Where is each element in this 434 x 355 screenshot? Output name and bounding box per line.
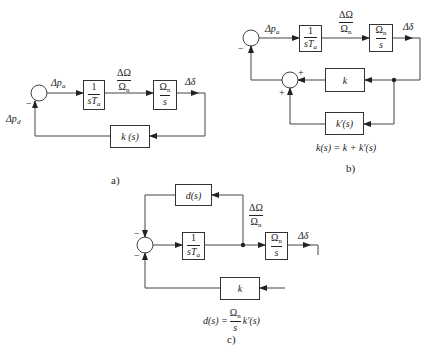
equation-b: k(s) = k + k′(s) [316,143,376,153]
angle-block-b: Ωn s [369,24,393,52]
feedback-block-kprime-b: k′(s) [325,112,364,135]
block-diagram-wires [0,0,434,355]
equation-c: d(s) = Ωn s k′(s) [203,308,260,334]
feedforward-block-ds-c: d(s) [175,184,212,206]
sum-junction-a [31,85,47,101]
sum-junction-b-inner [282,72,298,88]
caption-b: b) [346,162,355,174]
sum-sign-minus-b: − [238,44,244,54]
angle-block-a: Ωn s [153,80,177,110]
feedback-block-k-c: k [220,277,260,300]
inner-sum-sign-plus-bottom: + [279,88,285,98]
output-label-a: Δδ [185,77,196,87]
branch-point-b [392,78,396,82]
feedback-signal-label-a: Δpd [6,114,20,126]
sum-sign-minus-c-bottom: − [134,251,140,261]
speed-deviation-label-c: ΔΩ Ωn [249,203,263,229]
output-label-c: Δδ [298,231,309,241]
feedback-block-k-b: k [325,68,365,92]
block-denominator: sTa [88,96,101,108]
block-numerator: 1 [91,82,96,93]
input-signal-label-b: Δpa [265,24,279,36]
integrator-block-c: 1 sTa [182,232,205,260]
feedback-block-ks-a: k (s) [110,125,150,148]
sum-junction-b-main [243,30,259,46]
caption-a: a) [111,174,120,186]
sum-sign-minus-c-top: − [134,229,140,239]
inner-sum-sign-plus-top: + [298,68,304,78]
angle-block-c: Ωn s [265,232,288,260]
speed-deviation-label-a: ΔΩ Ωn [117,68,131,94]
branch-point-c [241,243,245,247]
integrator-block-b: 1 sTa [299,25,322,52]
integrator-block-a: 1 sTa [83,80,105,110]
speed-deviation-label-b: ΔΩ Ωn [339,10,353,36]
caption-c: c) [227,333,236,345]
output-label-b: Δδ [403,22,414,32]
sum-sign-minus-a: − [26,99,32,109]
input-signal-label-a: Δpa [51,78,65,90]
